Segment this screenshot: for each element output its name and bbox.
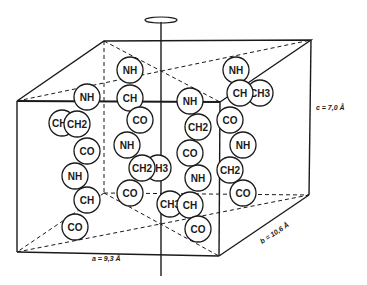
svg-text:CH2: CH2 [188,122,208,133]
svg-text:NH: NH [236,140,250,151]
chain-2: NH CH CO NH CH3 CH2 CO [114,57,171,206]
group-nh: NH [185,165,211,191]
group-ch2: CH2 [129,155,155,181]
group-co: CO [62,214,88,240]
svg-text:CO: CO [80,146,95,157]
svg-text:CO: CO [68,222,83,233]
group-co: CO [217,107,243,133]
svg-text:NH: NH [123,65,137,76]
group-ch: CH [74,187,100,213]
svg-text:CO: CO [191,224,206,235]
group-co: CO [117,180,143,206]
group-nh: NH [62,163,88,189]
rotation-axis [145,17,177,276]
chain-1: NH CH3 CH2 CO NH CH CO [49,84,100,240]
group-nh: NH [230,132,256,158]
svg-text:NH: NH [191,173,205,184]
dimension-c-label: c = 7,0 Å [316,103,345,112]
svg-text:CO: CO [123,188,138,199]
group-co: CO [74,138,100,164]
svg-text:CH: CH [233,88,247,99]
svg-text:CH2: CH2 [67,119,87,130]
svg-text:CO: CO [236,188,251,199]
group-ch2: CH2 [185,114,211,140]
svg-text:NH: NH [80,92,94,103]
svg-text:CH2: CH2 [132,163,152,174]
group-co: CO [127,107,153,133]
group-co: CO [185,216,211,242]
group-nh: NH [177,88,203,114]
svg-text:CO: CO [133,115,148,126]
group-nh: NH [223,57,249,83]
svg-text:NH: NH [229,65,243,76]
chain-4: NH CH3 CH CO NH CH2 CO [217,57,273,206]
group-ch: CH [227,80,253,106]
svg-text:CH: CH [183,200,197,211]
svg-text:CO: CO [223,115,238,126]
svg-text:CH: CH [80,195,94,206]
svg-text:NH: NH [68,171,82,182]
dimension-a-label: a = 9,3 Å [92,254,121,263]
group-ch2: CH2 [64,111,90,137]
group-nh: NH [117,57,143,83]
group-co: CO [230,180,256,206]
group-ch: CH [177,192,203,218]
group-nh: NH [114,132,140,158]
group-co: CO [177,140,203,166]
svg-text:CH2: CH2 [220,165,240,176]
svg-text:NH: NH [183,96,197,107]
dimension-b-label: b = 10,6 Å [258,220,290,245]
unit-cell-diagram: NH CH3 CH2 CO NH CH CO NH CH CO NH CH3 C… [0,0,367,285]
svg-text:CO: CO [183,148,198,159]
svg-text:CH: CH [123,93,137,104]
group-ch2: CH2 [217,157,243,183]
group-nh: NH [74,84,100,110]
svg-text:NH: NH [120,140,134,151]
